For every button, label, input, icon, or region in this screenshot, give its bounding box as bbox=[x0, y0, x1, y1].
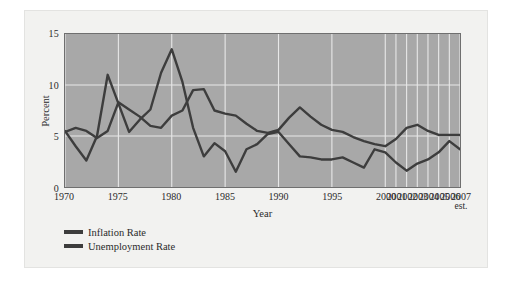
y-tick-label: 10 bbox=[48, 79, 59, 90]
y-tick-label: 15 bbox=[48, 28, 59, 39]
x-axis-label: Year bbox=[253, 208, 272, 219]
x-tick-label: 1990 bbox=[269, 191, 289, 202]
y-tick-label: 5 bbox=[54, 131, 59, 142]
x-tick-label: 1970 bbox=[54, 191, 74, 202]
x-tick-label: 1995 bbox=[322, 191, 342, 202]
legend-item: Unemployment Rate bbox=[64, 239, 175, 253]
x-tick-label: 2007est. bbox=[451, 191, 471, 211]
plot-area bbox=[64, 33, 461, 188]
legend-swatch-icon bbox=[64, 230, 83, 234]
chart-legend: Inflation RateUnemployment Rate bbox=[64, 225, 175, 253]
plot-wrapper: 051015 197019751980198519901995200020012… bbox=[64, 33, 461, 188]
x-tick-label: 1985 bbox=[215, 191, 235, 202]
x-tick-label: 1980 bbox=[161, 191, 181, 202]
legend-label: Unemployment Rate bbox=[88, 241, 175, 252]
series-line-0 bbox=[65, 49, 460, 171]
chart-figure: 051015 197019751980198519901995200020012… bbox=[24, 10, 488, 268]
x-tick-sublabel: est. bbox=[451, 201, 471, 211]
legend-swatch-icon bbox=[64, 244, 83, 248]
y-axis-label: Percent bbox=[40, 95, 51, 127]
legend-label: Inflation Rate bbox=[88, 227, 146, 238]
x-tick-label: 1975 bbox=[108, 191, 128, 202]
legend-item: Inflation Rate bbox=[64, 225, 175, 239]
series-lines bbox=[65, 34, 460, 187]
